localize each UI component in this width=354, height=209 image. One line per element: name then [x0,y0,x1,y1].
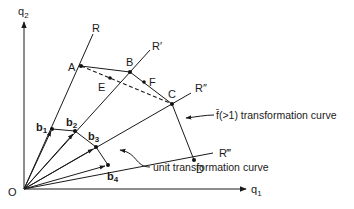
curve-b1-b4 [52,129,108,165]
point-E [108,76,112,80]
ray-R-label: R [92,22,100,34]
point-b4 [106,163,110,167]
ray-R-double-prime-label: R″ [195,82,207,94]
point-A [79,64,83,68]
unit-curve-pointer-arrow [120,150,150,167]
transformation-curve-diagram: q2 q1 O R R′ R″ R‴ A B C D E F [0,0,354,209]
point-F [142,80,146,84]
point-b3 [94,145,98,149]
label-E: E [98,81,105,93]
label-b4: b4 [107,170,119,184]
point-B [128,70,132,74]
q2-axis-label: q2 [18,5,29,20]
label-A: A [68,61,76,73]
label-B: B [126,56,133,68]
label-C: C [168,88,176,100]
label-b2: b2 [66,116,78,130]
annotations: f̄(>1) transformation curve unit transfo… [120,109,337,173]
vector-b3 [24,149,93,189]
label-b3: b3 [88,130,100,144]
point-b1 [50,127,54,131]
point-C [170,102,174,106]
upper-transformation-curve: A B C D E F [68,56,204,175]
ray-R-prime-label: R′ [152,40,162,52]
label-F: F [149,76,156,88]
origin-label: O [8,186,17,198]
unit-curve-annotation: unit transformation curve [153,161,269,173]
q1-axis-label: q1 [251,183,262,198]
upper-curve-annotation: f̄(>1) transformation curve [215,109,336,121]
vector-b4 [24,166,105,189]
upper-curve-pointer-arrow [186,115,214,118]
label-b1: b1 [36,121,48,135]
ray-R-triple-prime-label: R‴ [219,147,231,159]
vector-b1 [24,131,51,189]
